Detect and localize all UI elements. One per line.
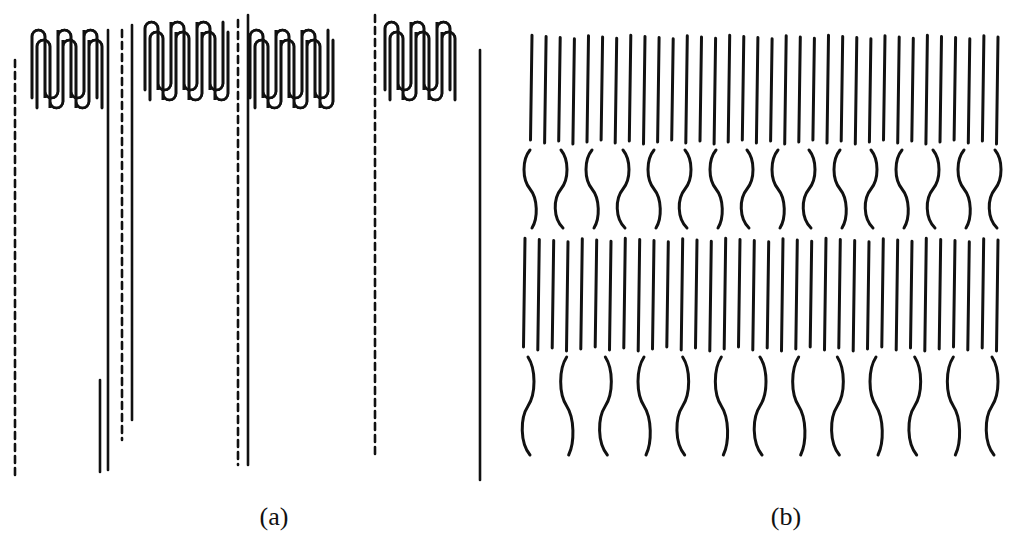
panel-a-label: (a) — [260, 502, 289, 532]
panel-b-label: (b) — [771, 502, 801, 532]
panel-a-folded-chains — [15, 15, 480, 480]
polymer-morphology-diagram — [0, 0, 1012, 549]
panel-b-lamellae — [522, 35, 1001, 455]
